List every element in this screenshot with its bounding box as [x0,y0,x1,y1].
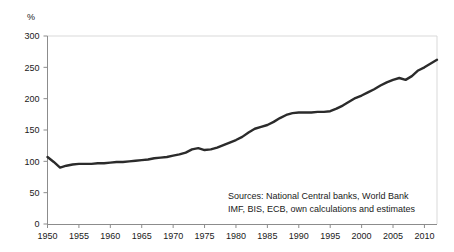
x-tick-label: 1975 [195,231,215,241]
chart-background [0,0,454,252]
x-tick-label: 1990 [289,231,309,241]
x-tick-label: 2010 [414,231,434,241]
y-axis-unit-label: % [27,12,35,22]
sources-line-1: Sources: National Central banks, World B… [228,191,409,201]
x-tick-label: 1965 [132,231,152,241]
sources-line-2: IMF, BIS, ECB, own calculations and esti… [228,204,416,214]
x-tick-label: 1985 [257,231,277,241]
line-chart: % 050100150200250300 1950195519601965197… [0,0,454,252]
x-tick-label: 2000 [352,231,372,241]
x-tick-label: 1960 [100,231,120,241]
x-tick-label: 1970 [163,231,183,241]
x-tick-label: 1955 [69,231,89,241]
y-tick-label: 100 [24,157,39,167]
chart-container: % 050100150200250300 1950195519601965197… [0,0,454,252]
y-tick-label: 50 [29,188,39,198]
x-tick-label: 1950 [37,231,57,241]
y-tick-label: 0 [34,219,39,229]
x-tick-label: 1995 [320,231,340,241]
x-tick-label: 1980 [226,231,246,241]
y-tick-label: 150 [24,125,39,135]
x-tick-label: 2005 [383,231,403,241]
y-tick-label: 250 [24,63,39,73]
y-tick-label: 300 [24,31,39,41]
y-tick-label: 200 [24,94,39,104]
